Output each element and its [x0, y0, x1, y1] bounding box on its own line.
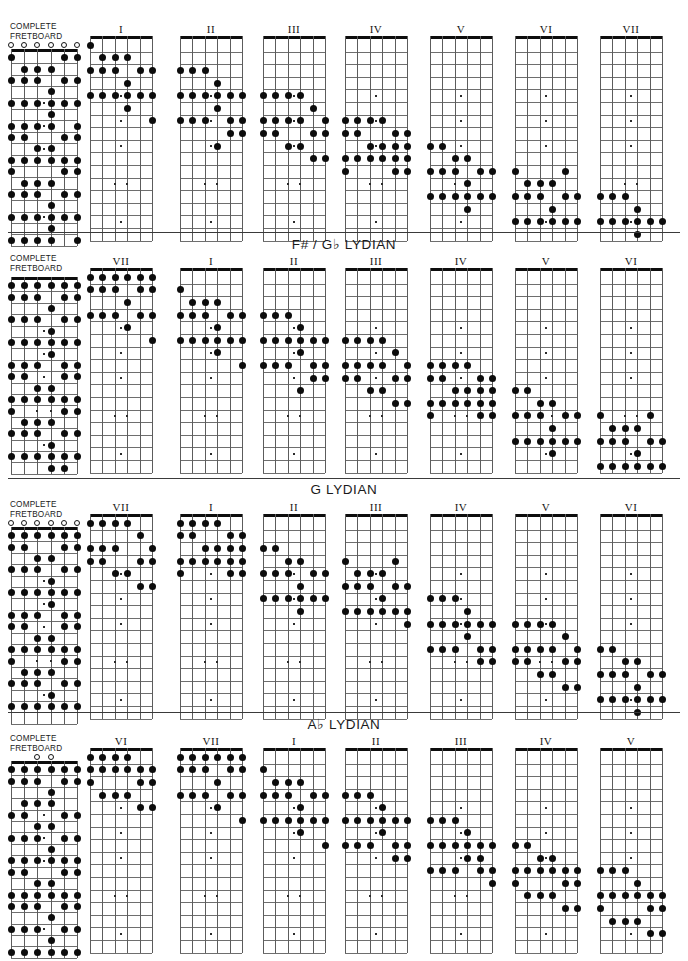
scale-tone-dot	[48, 949, 55, 956]
fret-inlay-marker	[545, 120, 547, 122]
fret-line	[180, 203, 242, 204]
fret-line	[11, 844, 77, 845]
fret-line	[345, 152, 407, 153]
fret-line	[600, 618, 662, 619]
complete-fretboard-label: COMPLETE FRETBOARD	[4, 734, 84, 753]
position-column: IV	[345, 22, 407, 241]
scale-tone-dot	[285, 570, 292, 577]
scale-tone-dot	[61, 869, 68, 876]
scale-tone-dot	[8, 168, 15, 175]
fret-line	[515, 77, 577, 78]
scale-tone-dot	[597, 412, 604, 419]
scale-tone-dot	[512, 880, 519, 887]
scale-tone-dot	[8, 623, 15, 630]
fret-line	[263, 814, 325, 815]
scale-tone-dot	[524, 193, 531, 200]
fret-line	[345, 384, 407, 385]
scale-tone-dot	[272, 595, 279, 602]
scale-tone-dot	[310, 155, 317, 162]
scale-tone-dot	[8, 766, 15, 773]
fret-line	[263, 643, 325, 644]
fret-line	[515, 567, 577, 568]
position-column: III	[263, 22, 325, 241]
scale-tone-dot	[647, 892, 654, 899]
scale-tone-dot	[404, 608, 411, 615]
scale-tone-dot	[21, 430, 28, 437]
scale-tone-dot	[609, 218, 616, 225]
scale-tone-dot	[227, 117, 234, 124]
fret-inlay-marker	[460, 933, 462, 935]
diagram-row: COMPLETE FRETBOARDIIIIIIIVVVIVII	[0, 22, 688, 232]
scale-tone-dot	[354, 337, 361, 344]
fret-line	[90, 397, 152, 398]
fret-line	[600, 927, 662, 928]
fret-line	[515, 801, 577, 802]
scale-tone-dot	[74, 778, 81, 785]
fret-line	[180, 397, 242, 398]
fret-line	[263, 397, 325, 398]
fret-line	[180, 422, 242, 423]
fret-line	[600, 384, 662, 385]
scale-tone-dot	[392, 168, 399, 175]
scale-tone-dot	[48, 465, 55, 472]
scale-tone-dot	[634, 684, 641, 691]
scale-tone-dot	[367, 608, 374, 615]
scale-tone-dot	[74, 646, 81, 653]
scale-tone-dot	[297, 829, 304, 836]
scale-tone-dot	[239, 545, 246, 552]
scale-tone-dot	[48, 937, 55, 944]
string-line	[650, 36, 651, 241]
fret-line	[430, 64, 492, 65]
scale-tone-dot	[537, 180, 544, 187]
fret-inlay-marker	[210, 857, 212, 859]
scale-tone-dot	[74, 857, 81, 864]
string-line	[662, 748, 663, 953]
fret-line	[345, 215, 407, 216]
string-line	[455, 748, 456, 953]
scale-tone-dot	[8, 903, 15, 910]
fret-inlay-marker	[287, 661, 289, 663]
fret-line	[600, 852, 662, 853]
fret-line	[263, 902, 325, 903]
fret-inlay-marker	[210, 120, 212, 122]
scale-tone-dot	[87, 274, 94, 281]
scale-tone-dot	[512, 193, 519, 200]
position-diagram	[430, 748, 492, 953]
position-roman-numeral: V	[430, 22, 492, 36]
fret-line	[90, 77, 152, 78]
scale-tone-dot	[452, 867, 459, 874]
fret-line	[90, 801, 152, 802]
fret-inlay-marker	[630, 453, 632, 455]
fret-line	[600, 473, 662, 474]
position-diagram	[180, 748, 242, 953]
scale-tone-dot	[549, 400, 556, 407]
scale-tone-dot	[74, 612, 81, 619]
scale-tone-dot	[239, 766, 246, 773]
fret-line	[430, 228, 492, 229]
fret-line	[430, 580, 492, 581]
scale-tone-dot	[489, 387, 496, 394]
fret-line	[430, 643, 492, 644]
fret-line	[345, 630, 407, 631]
fret-line	[345, 927, 407, 928]
scale-tone-dot	[659, 930, 666, 937]
nut	[263, 514, 325, 517]
nut	[430, 748, 492, 751]
fret-line	[90, 555, 152, 556]
scale-tone-dot	[622, 218, 629, 225]
scale-tone-dot	[549, 180, 556, 187]
scale-tone-dot	[48, 555, 55, 562]
fret-line	[180, 555, 242, 556]
fret-line	[90, 593, 152, 594]
fret-line	[263, 228, 325, 229]
scale-tone-dot	[21, 646, 28, 653]
scale-tone-dot	[21, 134, 28, 141]
fret-inlay-marker	[293, 857, 295, 859]
scale-tone-dot	[524, 218, 531, 225]
scale-tone-dot	[112, 520, 119, 527]
scale-tone-dot	[34, 680, 41, 687]
scale-tone-dot	[189, 299, 196, 306]
scale-tone-dot	[61, 465, 68, 472]
fret-line	[345, 953, 407, 954]
scale-tone-dot	[61, 362, 68, 369]
